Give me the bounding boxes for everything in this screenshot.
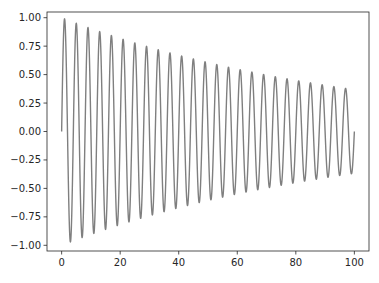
y-tick-label: 0.50 bbox=[19, 69, 41, 80]
y-axis: 1.000.750.500.250.00−0.25−0.50−0.75−1.00 bbox=[10, 12, 47, 251]
x-axis: 020406080100 bbox=[58, 251, 363, 268]
x-tick-label: 20 bbox=[114, 257, 127, 268]
x-tick-label: 40 bbox=[172, 257, 185, 268]
y-tick-label: −0.25 bbox=[10, 154, 41, 165]
y-tick-label: −1.00 bbox=[10, 240, 41, 251]
chart: 020406080100 1.000.750.500.250.00−0.25−0… bbox=[0, 0, 379, 283]
x-tick-label: 100 bbox=[345, 257, 364, 268]
x-tick-label: 80 bbox=[289, 257, 302, 268]
y-tick-label: 0.00 bbox=[19, 126, 41, 137]
y-tick-label: 0.25 bbox=[19, 98, 41, 109]
x-tick-label: 60 bbox=[231, 257, 244, 268]
x-tick-label: 0 bbox=[58, 257, 64, 268]
y-tick-label: −0.75 bbox=[10, 211, 41, 222]
y-tick-label: −0.50 bbox=[10, 183, 41, 194]
y-tick-label: 0.75 bbox=[19, 41, 41, 52]
y-tick-label: 1.00 bbox=[19, 12, 41, 23]
